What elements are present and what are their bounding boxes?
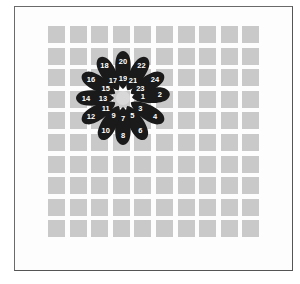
petal-inner-number: 3 — [138, 104, 142, 113]
petal-outer-number: 18 — [100, 61, 108, 70]
petal-outer-number: 16 — [87, 75, 95, 84]
petal-inner-number: 19 — [119, 74, 127, 83]
petal-outer-number: 12 — [87, 112, 95, 121]
petal-inner-number: 9 — [112, 111, 116, 120]
petal-outer-number: 8 — [121, 131, 125, 140]
petal-inner-number: 11 — [102, 104, 110, 113]
petal-outer-number: 6 — [138, 126, 142, 135]
petal-inner-number: 7 — [121, 114, 125, 123]
petal-inner-number: 13 — [99, 94, 107, 103]
petal-outer-number: 10 — [101, 126, 109, 135]
petal-outer-number: 20 — [119, 57, 127, 66]
petal-outer-number: 22 — [137, 61, 145, 70]
flower-diagram: 123456789101112131415161718192021222324 — [0, 0, 300, 284]
petal-outer-number: 14 — [82, 94, 91, 103]
petal-outer-number: 24 — [151, 75, 160, 84]
petal-outer-number: 2 — [158, 90, 162, 99]
flower-center — [116, 91, 130, 105]
petal-inner-number: 17 — [109, 76, 117, 85]
petal-inner-number: 5 — [130, 111, 134, 120]
petal-inner-number: 23 — [136, 84, 144, 93]
